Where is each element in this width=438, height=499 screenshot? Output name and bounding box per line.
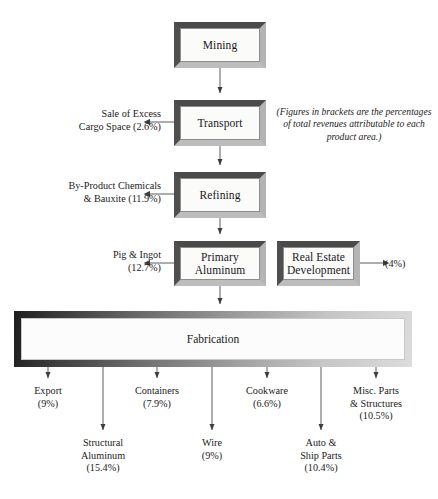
label-wire: Wire (9%) [164,437,260,462]
node-fabrication-label: Fabrication [187,333,239,345]
node-mining-label: Mining [203,39,237,52]
label-auto-ship-parts: Auto & Ship Parts (10.4%) [273,437,369,475]
node-refining[interactable]: Refining [174,172,266,218]
label-pig-and-ingot: Pig & Ingot (12.7%) [51,249,161,274]
node-mining[interactable]: Mining [174,22,266,68]
label-cookware: Cookware (6.6%) [219,385,315,410]
label-misc-parts-structures: Misc. Parts & Structures (10.5%) [328,385,424,423]
label-export: Export (9%) [0,385,96,410]
flowchart-canvas: Mining Transport Refining Primary Alumin… [0,0,438,499]
node-refining-label: Refining [199,189,240,202]
label-real-estate-percent: (4%) [385,258,433,271]
node-fabrication[interactable]: Fabrication [14,311,412,367]
node-transport[interactable]: Transport [174,100,266,146]
node-primary-aluminum-label: Primary Aluminum [195,251,246,277]
node-real-estate-development[interactable]: Real Estate Development [277,241,360,286]
node-transport-label: Transport [197,117,242,130]
node-real-estate-development-label: Real Estate Development [287,251,350,277]
label-containers: Containers (7.9%) [109,385,205,410]
figures-note: (Figures in brackets are the percentages… [274,106,434,143]
node-fabrication-inner: Fabrication [21,318,405,360]
label-by-product-chemicals-bauxite: By-Product Chemicals & Bauxite (11.9%) [9,180,161,205]
node-primary-aluminum[interactable]: Primary Aluminum [174,241,266,286]
label-structural-aluminum: Structural Aluminum (15.4%) [55,437,151,475]
label-sale-of-excess-cargo-space: Sale of Excess Cargo Space (2.6%) [26,108,161,133]
